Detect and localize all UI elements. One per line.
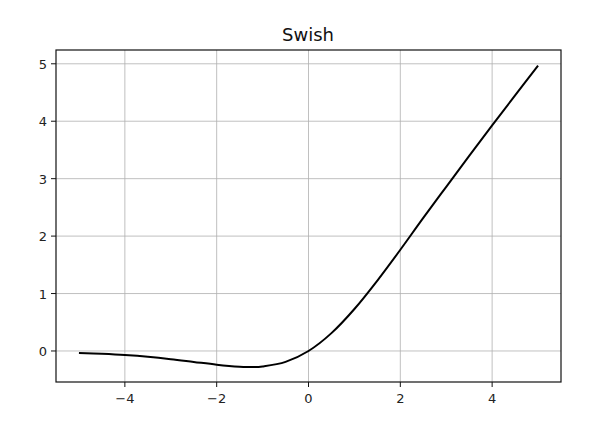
x-tick-label: 0 [304,391,312,406]
chart-title: Swish [282,24,334,45]
axis-ticks [51,64,492,387]
grid-lines [56,50,561,382]
x-tick-label: 2 [396,391,404,406]
y-tick-label: 2 [39,229,47,244]
y-tick-label: 4 [39,114,47,129]
x-tick-label: 4 [488,391,496,406]
y-tick-label: 5 [39,57,47,72]
y-tick-label: 3 [39,172,47,187]
x-tick-label: −2 [207,391,226,406]
swish-chart: Swish −4−2024012345 [0,0,589,421]
y-tick-label: 1 [39,287,47,302]
y-tick-label: 0 [39,344,47,359]
x-tick-label: −4 [115,391,134,406]
